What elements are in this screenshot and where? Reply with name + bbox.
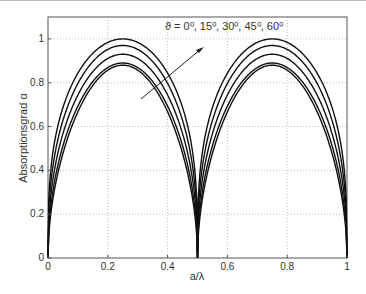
y-axis-label: Absorptionsgrad α xyxy=(17,93,29,183)
y-tick-label: 0.8 xyxy=(30,77,44,88)
x-tick-label: 0.6 xyxy=(220,261,234,272)
angle-annotation: ϑ = 0⁰, 15⁰, 30⁰, 45⁰, 60⁰ xyxy=(165,20,284,32)
y-tick-label: 0.2 xyxy=(30,208,44,219)
y-tick-label: 0.4 xyxy=(30,164,44,175)
series-curves xyxy=(48,39,347,258)
x-tick-label: 0.4 xyxy=(161,261,175,272)
x-axis-label: a/λ xyxy=(190,270,205,282)
x-tick-label: 1 xyxy=(344,261,350,272)
x-tick-label: 0.8 xyxy=(280,261,294,272)
absorption-chart: 00.20.40.60.8100.20.40.60.81 ϑ = 0⁰, 15⁰… xyxy=(0,0,366,294)
y-tick-label: 1 xyxy=(38,33,44,44)
x-tick-label: 0 xyxy=(45,261,51,272)
y-tick-label: 0 xyxy=(38,252,44,263)
y-tick-label: 0.6 xyxy=(30,121,44,132)
x-tick-label: 0.2 xyxy=(101,261,115,272)
